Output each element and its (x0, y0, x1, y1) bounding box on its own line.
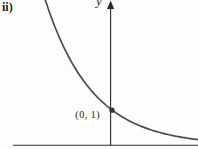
y-axis-label: y (96, 0, 102, 7)
point-marker (109, 108, 114, 113)
y-axis-arrowhead-icon (107, 1, 114, 10)
part-label: ii) (2, 1, 13, 13)
graph-canvas (0, 0, 198, 149)
exponential-graph-figure: ii) y (0, 1) (0, 0, 198, 149)
point-coordinate-label: (0, 1) (64, 110, 100, 120)
